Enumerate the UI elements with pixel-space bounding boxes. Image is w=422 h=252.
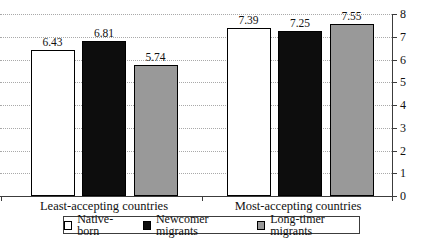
legend-label-newcomer-migrants: Newcomer migrants [156, 213, 243, 237]
y-tick-8 [393, 14, 397, 15]
y-tick-3 [393, 128, 397, 129]
y-tick-2 [393, 151, 397, 152]
value-label-native-born-group1: 6.43 [35, 36, 71, 48]
bar-chart: 0123456786.436.815.747.397.257.55 Least-… [0, 0, 422, 252]
legend-label-long-timer-migrants: Long-timer migrants [270, 213, 359, 237]
y-tick-1 [393, 173, 397, 174]
newcomer-migrants-swatch-icon [143, 221, 151, 230]
y-tick-0 [393, 196, 397, 197]
bar-native-born-group1 [31, 50, 75, 196]
y-tick-4 [393, 105, 397, 106]
x-axis-tick-left [1, 197, 2, 201]
legend-item-native-born: Native-born [64, 213, 129, 237]
legend: Native-born Newcomer migrants Long-timer… [63, 216, 360, 234]
legend-item-newcomer-migrants: Newcomer migrants [143, 213, 243, 237]
value-label-newcomer-migrants-group2: 7.25 [282, 17, 318, 29]
bar-newcomer-migrants-group2 [278, 31, 322, 196]
bar-native-born-group2 [227, 28, 271, 196]
y-tick-label-8: 8 [400, 7, 418, 21]
bar-newcomer-migrants-group1 [82, 41, 126, 196]
y-tick-label-0: 0 [400, 189, 418, 203]
value-label-long-timer-migrants-group2: 7.55 [334, 10, 370, 22]
native-born-swatch-icon [64, 221, 72, 230]
y-tick-label-5: 5 [400, 75, 418, 89]
y-tick-label-2: 2 [400, 144, 418, 158]
value-label-newcomer-migrants-group1: 6.81 [86, 27, 122, 39]
long-timer-migrants-swatch-icon [257, 221, 265, 230]
y-axis-line [392, 14, 393, 197]
y-tick-5 [393, 82, 397, 83]
value-label-long-timer-migrants-group1: 5.74 [138, 51, 174, 63]
y-tick-7 [393, 37, 397, 38]
legend-label-native-born: Native-born [77, 213, 128, 237]
y-tick-label-6: 6 [400, 53, 418, 67]
y-tick-label-7: 7 [400, 30, 418, 44]
value-label-native-born-group2: 7.39 [231, 14, 267, 26]
bar-long-timer-migrants-group2 [330, 24, 374, 196]
y-tick-label-3: 3 [400, 121, 418, 135]
legend-item-long-timer-migrants: Long-timer migrants [257, 213, 359, 237]
bar-long-timer-migrants-group1 [134, 65, 178, 196]
y-tick-label-1: 1 [400, 166, 418, 180]
x-axis-line [0, 196, 393, 197]
y-tick-label-4: 4 [400, 98, 418, 112]
y-tick-6 [393, 60, 397, 61]
